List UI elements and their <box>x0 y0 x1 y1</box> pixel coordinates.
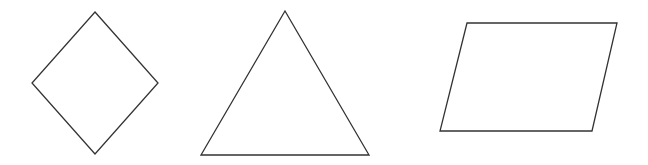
triangle-shape <box>201 11 369 155</box>
rhombus-shape <box>32 12 158 154</box>
parallelogram-shape <box>440 23 617 131</box>
shapes-diagram <box>0 0 648 165</box>
